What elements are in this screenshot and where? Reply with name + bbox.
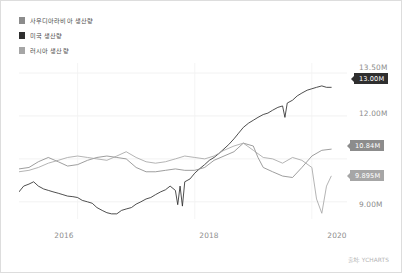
- value-badge-saudi: 10.84M: [350, 140, 384, 151]
- value-badge-us: 13.00M: [354, 73, 388, 84]
- square-swatch-icon: [19, 32, 25, 39]
- value-badge-saudi-text: 10.84M: [355, 142, 380, 150]
- chart-legend: 사우디아라비아 생산량 미국 생산량 러시아 생산량: [19, 15, 93, 56]
- square-swatch-icon: [19, 17, 25, 24]
- x-axis-tick-2020: 2020: [327, 231, 346, 240]
- chart-card: 사우디아라비아 생산량 미국 생산량 러시아 생산량 13.50M 12.00M…: [0, 0, 402, 273]
- x-axis-tick-2018: 2018: [199, 231, 218, 240]
- square-swatch-icon: [19, 47, 25, 54]
- legend-item-saudi[interactable]: 사우디아라비아 생산량: [19, 15, 93, 26]
- source-attribution: 출처: YCHARTS: [348, 255, 389, 264]
- value-badge-russia: 9.895M: [350, 170, 384, 181]
- legend-item-label: 러시아 생산량: [30, 46, 69, 55]
- x-axis-tick-2016: 2016: [54, 231, 73, 240]
- series-line: [19, 143, 331, 177]
- value-badge-us-text: 13.00M: [359, 75, 384, 83]
- y-axis-tick-900: 9.00M: [359, 200, 383, 209]
- legend-item-us[interactable]: 미국 생산량: [19, 30, 93, 41]
- y-axis-tick-1200: 12.00M: [359, 109, 387, 118]
- chart-svg: [19, 63, 347, 219]
- series-line: [19, 143, 331, 213]
- legend-item-label: 사우디아라비아 생산량: [30, 16, 93, 25]
- series-line: [19, 86, 331, 214]
- legend-item-label: 미국 생산량: [30, 31, 63, 40]
- plot-area: [19, 63, 347, 219]
- y-axis-tick-1350: 13.50M: [359, 63, 387, 72]
- legend-item-russia[interactable]: 러시아 생산량: [19, 45, 93, 56]
- series-lines: [19, 86, 331, 214]
- value-badge-russia-text: 9.895M: [355, 172, 380, 180]
